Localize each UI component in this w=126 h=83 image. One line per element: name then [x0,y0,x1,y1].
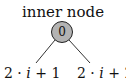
edge-right [69,40,90,63]
inner-node-circle: 0 [51,21,73,43]
left-child-post: + 1 [31,65,61,81]
right-child-label: 2 · i + 2 [77,64,126,82]
right-child-pre: 2 · [77,65,99,81]
edge-left [36,40,55,63]
left-child-pre: 2 · [4,65,26,81]
left-child-label: 2 · i + 1 [4,64,60,82]
right-child-post: + 2 [104,65,126,81]
